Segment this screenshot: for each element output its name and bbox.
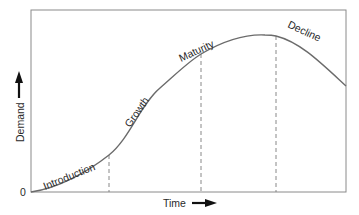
y-axis-label: Demand [14, 102, 26, 142]
x-axis-arrow-icon [192, 199, 217, 207]
stage-label-decline: Decline [286, 18, 323, 44]
origin-label: 0 [20, 186, 26, 198]
stage-label-maturity: Maturity [177, 37, 217, 64]
x-axis-label: Time [163, 197, 186, 209]
plot-frame [31, 10, 346, 192]
life-cycle-chart: Introduction Growth Maturity Decline 0 D… [0, 0, 359, 215]
stage-label-growth: Growth [122, 94, 151, 129]
y-axis-arrow-icon [15, 71, 23, 98]
stage-label-introduction: Introduction [41, 160, 97, 192]
